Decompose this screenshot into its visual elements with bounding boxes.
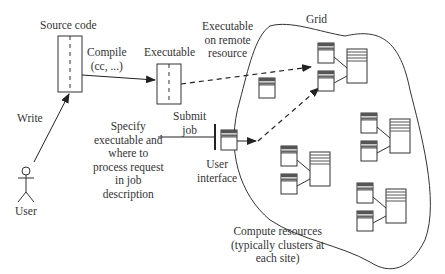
compute-line2: (typically clusters at (231, 239, 324, 253)
exec-remote-line2: on remote (202, 34, 253, 48)
specify-line3: where to (93, 147, 164, 161)
compile-label: Compile (cc, ...) (87, 46, 127, 73)
specify-line1: Specify (93, 120, 164, 134)
executable-box (157, 64, 181, 104)
grid-label: Grid (306, 13, 327, 27)
compile-arrow (82, 75, 155, 80)
write-arrow (34, 94, 69, 162)
specify-label: Specify executable and where to process … (93, 120, 164, 201)
compile-label-line1: Compile (87, 46, 127, 60)
submit-label-line2: job (173, 124, 206, 138)
exec-remote-line1: Executable (202, 20, 253, 34)
user-stick-figure-icon (18, 167, 34, 202)
ui-label-line1: User (197, 158, 237, 172)
compute-line1: Compute resources (231, 225, 324, 239)
user-label: User (15, 205, 37, 219)
source-code-box (58, 36, 82, 92)
cluster-2 (361, 113, 410, 161)
specify-line6: description (93, 188, 164, 202)
executable-label: Executable (144, 46, 195, 60)
compile-label-line2: (cc, ...) (87, 60, 127, 74)
remote-exec-arrow (181, 67, 311, 84)
standalone-node-icon (259, 78, 275, 98)
compute-resources-label: Compute resources (typically clusters at… (231, 225, 324, 266)
user-interface-machine-icon (221, 130, 237, 150)
specify-line2: executable and (93, 134, 164, 148)
exec-remote-line3: resource (202, 47, 253, 61)
specify-line5: in job (93, 174, 164, 188)
specify-line4: process request (93, 161, 164, 175)
write-label: Write (17, 112, 43, 126)
submit-label-line1: Submit (173, 110, 206, 124)
cluster-4 (357, 183, 406, 231)
executable-remote-label: Executable on remote resource (202, 20, 253, 61)
cluster-3 (281, 146, 330, 194)
user-interface-label: User interface (197, 158, 237, 185)
cluster-1 (318, 43, 367, 91)
submit-job-label: Submit job (173, 110, 206, 137)
source-code-label: Source code (40, 19, 97, 33)
compute-line3: each site) (231, 252, 324, 266)
ui-label-line2: interface (197, 172, 237, 186)
